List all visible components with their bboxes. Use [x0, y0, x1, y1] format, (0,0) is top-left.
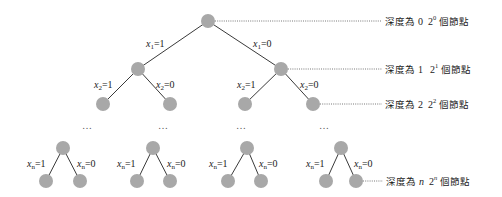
node-b1-top: [56, 141, 70, 155]
node-b3-right: [254, 174, 268, 188]
edge-label-xn-1-b4: xn=1: [305, 158, 325, 171]
ellipsis-2: …: [158, 120, 168, 131]
node-b4-right: [349, 174, 363, 188]
depth-label-2: 深度為222個節點: [385, 97, 469, 110]
node-l2-3: [238, 97, 252, 111]
node-b4-top: [334, 141, 348, 155]
edge-label-x2-b: x2=0: [155, 79, 175, 92]
edge-label-xn-1-b1: xn=1: [26, 158, 46, 171]
node-b3-top: [240, 141, 254, 155]
edge-label-x2-c: x2=1: [236, 79, 256, 92]
node-b2-top: [146, 141, 160, 155]
node-b3-left: [221, 174, 235, 188]
edge-label-x1-1: x1=1: [145, 38, 165, 51]
edge-label-xn-0-b4: xn=0: [353, 158, 373, 171]
depth-label-n: 深度為n2n個節點: [386, 174, 470, 187]
node-l2-4: [306, 97, 320, 111]
edge-label-x2-a: x2=1: [93, 79, 113, 92]
ellipsis-3: …: [236, 120, 246, 131]
node-l2-1: [96, 97, 110, 111]
depth-label-0: 深度為020個節點: [385, 14, 469, 27]
node-b4-left: [319, 174, 333, 188]
node-l1-left: [131, 62, 145, 76]
depth-label-1: 深度為121個節點: [385, 62, 471, 75]
node-b1-left: [39, 174, 53, 188]
node-l1-right: [274, 62, 288, 76]
edge-label-xn-1-b3: xn=1: [208, 158, 228, 171]
node-b2-left: [130, 174, 144, 188]
binary-tree-diagram: x1=1 x1=0 x2=1 x2=0 x2=1 x2=0 … … … … xn…: [0, 0, 502, 197]
edge-label-xn-0-b2: xn=0: [166, 158, 186, 171]
edge-label-xn-0-b1: xn=0: [76, 158, 96, 171]
ellipsis-1: …: [82, 120, 92, 131]
ellipsis-4: …: [319, 120, 329, 131]
node-root: [201, 14, 215, 28]
edge-label-xn-0-b3: xn=0: [258, 158, 278, 171]
node-b2-right: [163, 174, 177, 188]
node-l2-2: [163, 97, 177, 111]
edge-label-x2-d: x2=0: [299, 79, 319, 92]
edge-label-xn-1-b2: xn=1: [116, 158, 136, 171]
edge-label-x1-0: x1=0: [252, 38, 272, 51]
node-b1-right: [73, 174, 87, 188]
